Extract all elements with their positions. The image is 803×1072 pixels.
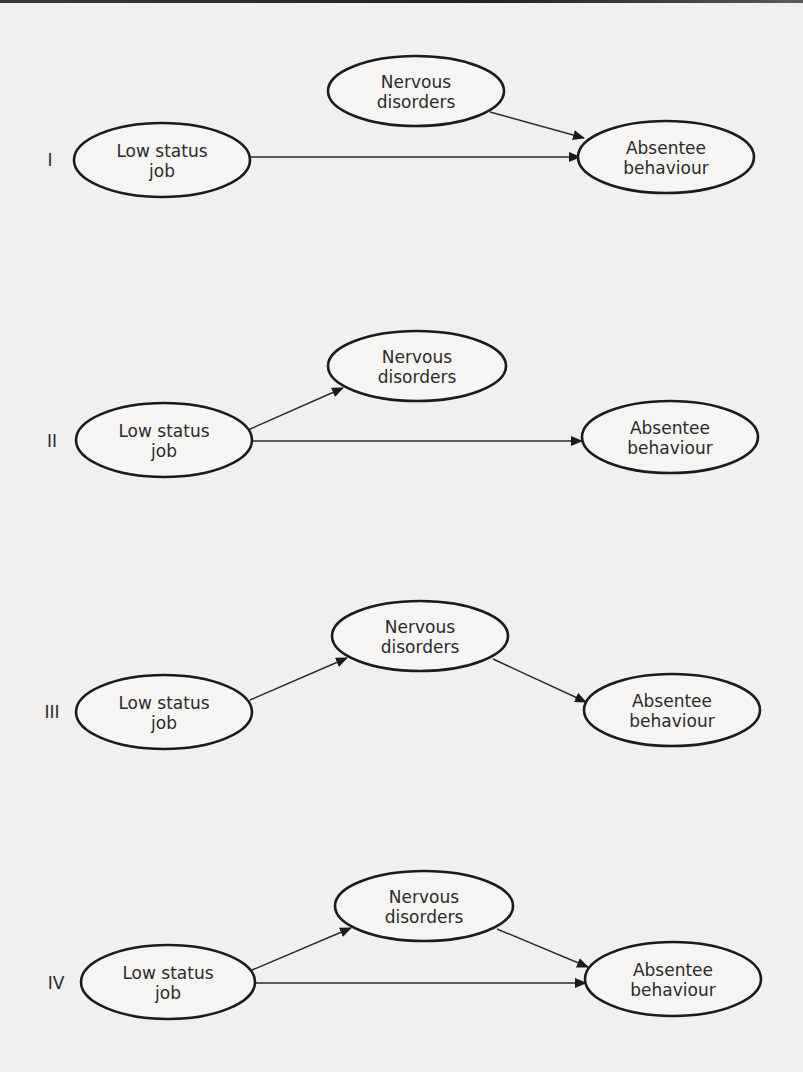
node-label-line1: Low status [122, 963, 213, 983]
node-label-line2: job [150, 441, 177, 461]
node-nervous-disorders: Nervousdisorders [328, 331, 506, 401]
node-label-line1: Nervous [382, 347, 452, 367]
arrow-nervous-disorders-to-absentee-behaviour [493, 659, 586, 702]
node-nervous-disorders: Nervousdisorders [332, 601, 508, 671]
node-label-line1: Low status [118, 421, 209, 441]
diagram-label: I [47, 150, 52, 170]
diagram-label: III [44, 702, 59, 722]
node-label-line1: Low status [118, 693, 209, 713]
node-label-line2: disorders [381, 637, 460, 657]
node-label-line2: job [148, 161, 175, 181]
node-absentee-behaviour: Absenteebehaviour [578, 121, 754, 193]
diagram-iii: IIILow statusjobNervousdisordersAbsentee… [44, 601, 760, 749]
causal-diagrams-canvas: ILow statusjobNervousdisordersAbsenteebe… [0, 0, 803, 1072]
node-label-line1: Absentee [633, 960, 713, 980]
node-label-line2: disorders [385, 907, 464, 927]
node-label-line1: Nervous [385, 617, 455, 637]
node-label-line1: Absentee [632, 691, 712, 711]
node-label-line2: behaviour [629, 711, 714, 731]
node-nervous-disorders: Nervousdisorders [328, 56, 504, 126]
node-low-status-job: Low statusjob [74, 123, 250, 197]
node-low-status-job: Low statusjob [76, 675, 252, 749]
node-absentee-behaviour: Absenteebehaviour [582, 401, 758, 473]
node-label-line2: behaviour [627, 438, 712, 458]
node-label-line1: Absentee [630, 418, 710, 438]
diagram-ii: IILow statusjobNervousdisordersAbsenteeb… [47, 331, 758, 477]
arrow-low-status-job-to-nervous-disorders [250, 658, 347, 700]
diagram-i: ILow statusjobNervousdisordersAbsenteebe… [47, 56, 754, 197]
node-label-line2: job [150, 713, 177, 733]
node-label-line2: job [154, 983, 181, 1003]
node-low-status-job: Low statusjob [81, 945, 255, 1019]
node-absentee-behaviour: Absenteebehaviour [584, 674, 760, 746]
arrow-nervous-disorders-to-absentee-behaviour [490, 112, 584, 138]
node-label-line2: disorders [377, 92, 456, 112]
diagram-label: IV [48, 973, 65, 993]
node-label-line1: Nervous [381, 72, 451, 92]
diagram-iv: IVLow statusjobNervousdisordersAbsenteeb… [48, 871, 761, 1019]
diagram-label: II [47, 431, 57, 451]
node-absentee-behaviour: Absenteebehaviour [585, 942, 761, 1016]
node-label-line2: behaviour [630, 980, 715, 1000]
node-label-line2: disorders [378, 367, 457, 387]
arrow-low-status-job-to-nervous-disorders [252, 928, 351, 970]
node-nervous-disorders: Nervousdisorders [335, 871, 513, 941]
node-label-line1: Low status [116, 141, 207, 161]
node-label-line1: Nervous [389, 887, 459, 907]
node-label-line1: Absentee [626, 138, 706, 158]
arrow-low-status-job-to-nervous-disorders [248, 388, 343, 430]
node-low-status-job: Low statusjob [76, 403, 252, 477]
node-label-line2: behaviour [623, 158, 708, 178]
arrow-nervous-disorders-to-absentee-behaviour [497, 929, 588, 967]
